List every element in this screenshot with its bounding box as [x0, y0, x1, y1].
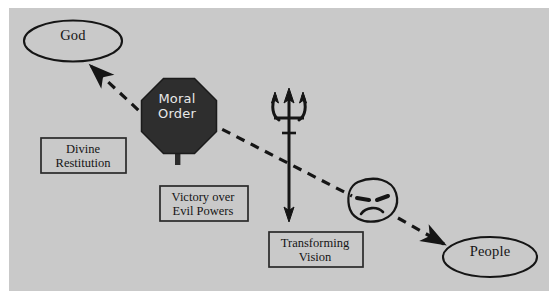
dashed-arrow-to-people	[208, 122, 444, 244]
trident-double-arrow-icon	[272, 88, 307, 222]
diagram-canvas: God People Moral Order Divine Restitutio…	[0, 0, 560, 302]
transforming-vision-box	[269, 232, 363, 267]
moral-order-sign	[142, 79, 217, 154]
diagram-vector-layer	[0, 0, 560, 302]
divine-restitution-box	[41, 138, 126, 173]
people-node	[443, 237, 537, 277]
frowning-face-icon	[348, 179, 397, 222]
god-node	[24, 21, 122, 62]
victory-over-evil-powers-box	[160, 186, 248, 221]
